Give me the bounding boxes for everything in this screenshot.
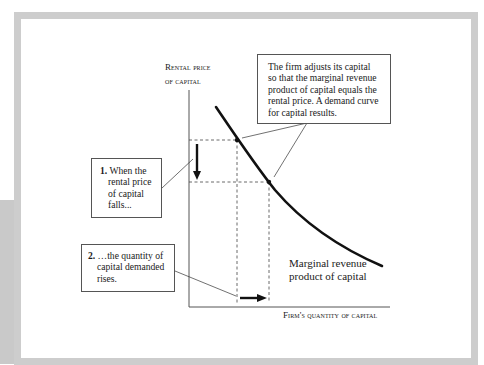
callout-line: of capital (100, 188, 157, 199)
callout-line: so that the marginal revenue (268, 72, 382, 83)
curve-label-line1: Marginal revenue (289, 257, 367, 270)
callout-line: When the (109, 165, 146, 176)
right-arrow-icon (240, 294, 267, 302)
callout-line: falls... (100, 199, 157, 210)
callout-line: The firm adjusts its capital (268, 61, 382, 72)
y-axis-label: Rental price of capital (165, 60, 211, 88)
callout-firm-adjusts: The firm adjusts its capital so that the… (257, 54, 391, 124)
y-axis-label-line1: Rental price (165, 60, 211, 74)
callout-line: for capital results. (268, 107, 382, 118)
callout-line: rental price (100, 176, 157, 187)
callout-line: product of capital equals the (268, 84, 382, 95)
mrp-curve (216, 107, 382, 266)
y-axis-label-line2: of capital (165, 74, 211, 88)
callout-line: rises. (88, 273, 170, 284)
down-arrow-icon (193, 144, 201, 180)
callout-line: …the quantity of (98, 250, 164, 261)
leader-lines (162, 123, 307, 296)
callout-line: capital demanded (88, 261, 170, 272)
point-high-price (235, 138, 239, 142)
x-axis-label: Firm's quantity of capital (283, 310, 377, 320)
callout-step-1: 1. When the rental price of capital fall… (91, 158, 162, 218)
callout-line: rental price. A demand curve (268, 95, 382, 106)
point-low-price (267, 180, 271, 184)
step-number: 1. (100, 165, 107, 176)
step-number: 2. (88, 250, 95, 261)
callout-step-2: 2. …the quantity of capital demanded ris… (81, 244, 175, 292)
curve-label: Marginal revenue product of capital (289, 257, 367, 283)
curve-label-line2: product of capital (289, 270, 367, 283)
